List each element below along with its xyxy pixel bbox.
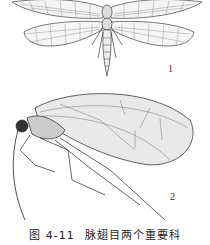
panel-1-label: 1	[168, 63, 173, 74]
figure-caption: 图 4-11脉翅目两个重要科	[0, 226, 210, 242]
caption-number: 图 4-11	[29, 229, 74, 242]
panel-2-illustration	[13, 94, 193, 220]
insect-illustrations: 1 2	[0, 0, 210, 245]
caption-text: 脉翅目两个重要科	[85, 229, 181, 242]
panel-2-label: 2	[170, 191, 175, 202]
panel-1-illustration	[12, 0, 202, 76]
